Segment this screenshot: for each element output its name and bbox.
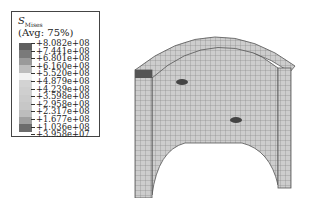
left-wall bbox=[135, 70, 152, 198]
legend-value: +3.958e+07 bbox=[31, 131, 90, 139]
half-cylinder-mesh bbox=[130, 20, 300, 198]
defect-2 bbox=[230, 117, 242, 123]
legend-values: +8.082e+08+7.441e+08+6.801e+08+6.160e+08… bbox=[31, 40, 90, 139]
right-wall bbox=[278, 68, 291, 188]
stress-legend: SMises (Avg: 75%) +8.082e+08+7.441e+08+6… bbox=[11, 11, 100, 137]
defect-1 bbox=[176, 79, 188, 85]
variable-label: S bbox=[18, 15, 25, 26]
legend-averaging: (Avg: 75%) bbox=[18, 27, 73, 38]
stress-hotspot bbox=[135, 70, 152, 78]
inner-surface bbox=[152, 43, 278, 195]
